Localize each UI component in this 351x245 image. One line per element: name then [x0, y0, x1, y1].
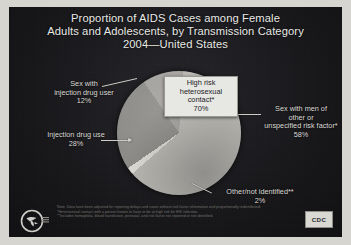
cdc-logo-label: CDC [312, 216, 326, 223]
footnote-double-asterisk: **Includes hemophilia, blood transfusion… [57, 214, 295, 219]
title-line-3: 2004—United States [9, 38, 342, 51]
label-msm-value: 58% [251, 131, 342, 140]
label-other-value: 2% [205, 197, 315, 206]
label-injection-drug-use-value: 28% [33, 140, 119, 149]
title-line-1: Proportion of AIDS Cases among Female [9, 12, 342, 25]
footnote-note: Note: Data have been adjusted for report… [57, 205, 295, 210]
cdc-logo: CDC [305, 211, 333, 228]
slide-title: Proportion of AIDS Cases among Female Ad… [9, 12, 342, 52]
label-other-not-identified: Other/not identified** 2% [205, 188, 315, 205]
presentation-slide: Proportion of AIDS Cases among Female Ad… [9, 7, 342, 237]
label-sex-with-idu-value: 12% [41, 97, 127, 106]
footnotes: Note: Data have been adjusted for report… [57, 205, 295, 219]
leader-arrowhead-injection-drug-use [128, 138, 132, 142]
slide-frame: Proportion of AIDS Cases among Female Ad… [0, 0, 351, 245]
callout-high-risk-heterosexual-contact: High risk heterosexual contact* 70% [164, 76, 238, 117]
label-sex-with-men-other-risk: Sex with men of other or unspecified ris… [251, 105, 342, 139]
title-line-2: Adults and Adolescents, by Transmission … [9, 25, 342, 38]
hhs-eagle-emblem-icon [18, 205, 50, 235]
label-sex-with-injection-drug-user: Sex with injection drug user 12% [41, 80, 127, 106]
label-injection-drug-use: Injection drug use 28% [33, 131, 119, 148]
callout-value: 70% [167, 105, 235, 114]
